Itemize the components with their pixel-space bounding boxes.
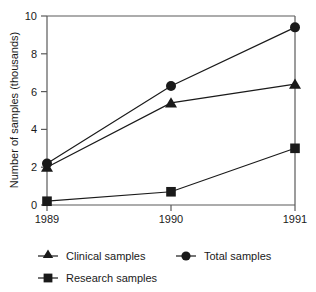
circle-marker-icon [181,251,190,260]
legend-label-clinical: Clinical samples [66,250,146,262]
legend-entry-research: Research samples [38,272,158,284]
square-marker-icon [44,274,53,283]
y-tick-label-6: 6 [31,86,37,98]
square-marker-icon [290,144,300,154]
y-tick-label-4: 4 [31,123,37,135]
series-line [47,27,295,163]
y-tick-label-0: 0 [31,199,37,211]
series-clinical-samples [41,78,301,171]
chart-figure: 10 8 6 4 2 0 1989 1990 1991 Number of sa… [0,0,316,292]
y-tick-label-10: 10 [25,10,37,22]
x-tick-label-1991: 1991 [283,213,307,225]
triangle-marker-icon [289,78,301,88]
circle-marker-icon [166,81,176,91]
legend-label-research: Research samples [66,272,158,284]
legend-entry-total: Total samples [176,250,272,262]
chart-legend: Clinical samples Total samples Research … [38,250,272,285]
legend-entry-clinical: Clinical samples [38,250,146,263]
y-tick-label-2: 2 [31,161,37,173]
series-research-samples [42,144,300,207]
square-marker-icon [166,187,176,197]
y-tick-label-8: 8 [31,48,37,60]
x-tick-label-1990: 1990 [159,213,183,225]
line-chart: 10 8 6 4 2 0 1989 1990 1991 Number of sa… [0,0,316,292]
circle-marker-icon [42,158,52,168]
legend-label-total: Total samples [204,250,272,262]
series-layer [41,22,301,206]
square-marker-icon [42,196,52,206]
triangle-marker-icon [43,250,53,259]
y-axis-title: Number of samples (thousands) [8,32,20,189]
y-axis-ticks [41,16,47,205]
x-axis-ticks [47,205,295,211]
y-tick-labels: 10 8 6 4 2 0 [25,10,37,211]
circle-marker-icon [290,22,300,32]
series-line [47,84,295,167]
x-tick-label-1989: 1989 [35,213,59,225]
series-total-samples [42,22,300,168]
x-tick-labels: 1989 1990 1991 [35,213,307,225]
